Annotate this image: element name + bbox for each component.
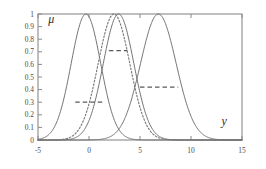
y-tick-label: 0.6	[25, 60, 35, 69]
y-tick-label: 0.8	[25, 35, 35, 44]
x-tick-label: 15	[238, 146, 246, 155]
y-tick-label: 0	[30, 136, 34, 145]
y-tick-label: 1	[30, 10, 34, 19]
y-tick-label: 0.7	[25, 47, 35, 56]
y-tick-label: 0.2	[25, 110, 35, 119]
y-tick-label: 0.9	[25, 22, 35, 31]
y-tick-label: 0.3	[25, 98, 35, 107]
chart-background	[0, 0, 266, 169]
mu-axis-symbol: μ	[47, 12, 54, 26]
x-tick-label: -5	[35, 146, 41, 155]
x-tick-label: 0	[87, 146, 91, 155]
y-axis-symbol: y	[221, 114, 228, 128]
y-axis-tick-labels: 00.10.20.30.40.50.60.70.80.91	[25, 10, 35, 145]
membership-function-chart: 00.10.20.30.40.50.60.70.80.91 -5051015 μ…	[0, 0, 266, 169]
x-tick-label: 10	[187, 146, 195, 155]
x-tick-label: 5	[138, 146, 142, 155]
y-tick-label: 0.5	[25, 73, 35, 82]
y-tick-label: 0.1	[25, 123, 35, 132]
y-tick-label: 0.4	[25, 85, 35, 94]
